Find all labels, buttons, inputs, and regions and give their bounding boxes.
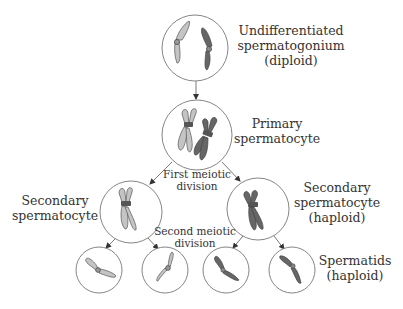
arrow-to-spermatid-3: [233, 236, 243, 248]
label-line: (diploid): [264, 53, 317, 68]
label-primary-spermatocyte: Primary spermatocyte: [234, 116, 320, 146]
cell-spermatogonium: [162, 15, 228, 81]
label-line: spermatocyte: [234, 131, 320, 146]
cell-secondary-spermatocyte-left: [100, 181, 162, 243]
arrow-to-spermatid-2: [148, 238, 158, 249]
cell-spermatid-3: [203, 247, 249, 293]
label-line: Spermatids: [319, 253, 392, 268]
label-line: spermatocyte: [12, 208, 98, 223]
cell-secondary-spermatocyte-right: [227, 178, 289, 240]
cell-spermatid-1: [76, 247, 122, 293]
label-first-meiotic-division: First meiotic division: [163, 168, 231, 192]
label-line: Primary: [252, 116, 304, 131]
cell-spermatid-2: [142, 247, 188, 293]
label-line: spermatocyte: [294, 195, 380, 210]
label-spermatids: Spermatids (haploid): [319, 253, 392, 283]
label-second-meiotic-division: Second meiotic division: [154, 225, 236, 249]
label-spermatogonium: Undifferentiated spermatogonium (diploid…: [237, 23, 344, 68]
label-line: division: [174, 237, 215, 249]
label-line: division: [176, 180, 217, 192]
cell-spermatid-4: [269, 247, 315, 293]
label-line: Undifferentiated: [238, 23, 343, 38]
label-line: Secondary: [21, 193, 89, 208]
arrow-to-spermatid-4: [274, 236, 284, 249]
label-line: Secondary: [303, 180, 371, 195]
label-line: (haploid): [309, 210, 366, 225]
spermatogenesis-diagram: Undifferentiated spermatogonium (diploid…: [0, 0, 403, 309]
label-line: First meiotic: [163, 168, 231, 180]
label-line: (haploid): [327, 268, 384, 283]
label-line: Second meiotic: [154, 225, 236, 237]
label-secondary-spermatocyte-right: Secondary spermatocyte (haploid): [294, 180, 380, 225]
label-secondary-spermatocyte-left: Secondary spermatocyte: [12, 193, 98, 223]
arrow-to-spermatid-1: [106, 238, 116, 248]
cell-primary-spermatocyte: [162, 100, 232, 170]
label-line: spermatogonium: [237, 38, 344, 53]
